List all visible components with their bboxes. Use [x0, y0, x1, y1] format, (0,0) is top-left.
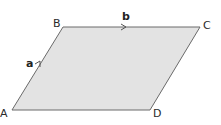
vector-label-a: a — [26, 57, 33, 70]
vertex-label-a: A — [0, 107, 8, 120]
parallelogram-shape — [12, 27, 200, 110]
vector-label-b: b — [122, 10, 130, 23]
vertex-label-d: D — [153, 107, 161, 120]
vertex-label-c: C — [203, 19, 211, 32]
vertex-label-b: B — [53, 17, 61, 30]
parallelogram-diagram: A B C D b a — [0, 0, 221, 125]
